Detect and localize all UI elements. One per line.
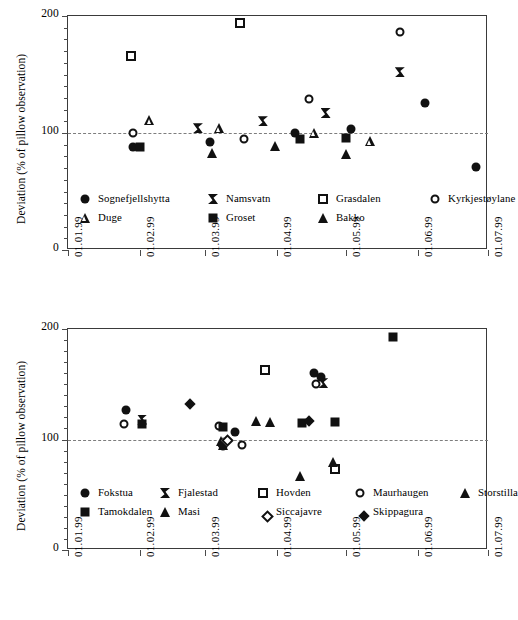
open-circle-marker-icon bbox=[431, 195, 440, 204]
y-axis-title: Deviation (% of pillow observation) bbox=[15, 54, 27, 224]
legend-label: Tamokdalen bbox=[98, 505, 152, 517]
open-square-marker-icon bbox=[258, 488, 268, 498]
y-axis-tick bbox=[64, 86, 68, 87]
x-axis-tick bbox=[205, 250, 206, 256]
x-axis-tick bbox=[140, 550, 141, 556]
filled-circle-marker-icon bbox=[122, 405, 131, 414]
y-axis-tick bbox=[64, 121, 68, 122]
y-axis-tick bbox=[64, 145, 68, 146]
filled-square-marker-icon bbox=[219, 423, 228, 432]
filled-square-marker-icon bbox=[296, 134, 305, 143]
filled-diamond-marker-icon bbox=[185, 398, 196, 409]
y-axis-tick bbox=[64, 362, 68, 363]
legend-row: TamokdalenMasiSiccajavreSkippagura bbox=[85, 505, 475, 520]
filled-triangle-marker-icon bbox=[265, 417, 275, 427]
y-axis-tick-label: 200 bbox=[21, 320, 59, 332]
open-circle-marker-icon bbox=[238, 441, 247, 450]
y-axis-tick bbox=[64, 428, 68, 429]
open-square-marker-icon bbox=[235, 18, 245, 28]
legend-label: Groset bbox=[226, 211, 255, 223]
y-axis-tick bbox=[64, 227, 68, 228]
open-circle-marker-icon bbox=[240, 134, 249, 143]
y-axis-tick-label: 0 bbox=[21, 541, 59, 553]
open-triangle-marker-icon bbox=[80, 213, 90, 223]
x-axis-tick-label: 01.01.99 bbox=[72, 516, 84, 557]
y-axis-tick bbox=[64, 484, 68, 485]
open-square-marker-icon bbox=[318, 194, 328, 204]
y-axis-tick bbox=[64, 203, 68, 204]
open-square-marker-icon bbox=[260, 365, 270, 375]
y-axis-tick bbox=[64, 215, 68, 216]
filled-triangle-marker-icon bbox=[270, 141, 280, 151]
filled-square-marker-icon bbox=[342, 133, 351, 142]
open-circle-marker-icon bbox=[128, 129, 137, 138]
y-axis-tick bbox=[64, 63, 68, 64]
filled-triangle-marker-icon bbox=[341, 149, 351, 159]
y-axis-tick bbox=[64, 110, 68, 111]
x-axis-tick-label: 01.06.99 bbox=[422, 516, 434, 557]
y-axis-tick bbox=[64, 51, 68, 52]
x-axis-tick bbox=[140, 250, 141, 256]
filled-triangle-marker-icon bbox=[251, 416, 261, 426]
bowtie-marker-icon bbox=[208, 194, 218, 204]
y-axis-tick bbox=[64, 417, 68, 418]
filled-circle-marker-icon bbox=[472, 162, 481, 171]
y-axis-tick bbox=[64, 98, 68, 99]
legend-label: Hovden bbox=[276, 486, 311, 498]
y-axis-tick bbox=[64, 351, 68, 352]
y-axis-tick bbox=[64, 238, 68, 239]
y-axis-tick bbox=[64, 506, 68, 507]
legend-label: Fjalestad bbox=[178, 486, 218, 498]
x-axis-tick bbox=[68, 250, 69, 256]
filled-triangle-marker-icon bbox=[318, 213, 328, 223]
y-axis-tick-label: 0 bbox=[21, 241, 59, 253]
filled-diamond-marker-icon bbox=[358, 510, 369, 521]
y-axis-tick bbox=[64, 168, 68, 169]
y-axis-tick bbox=[64, 180, 68, 181]
filled-triangle-marker-icon bbox=[460, 488, 470, 498]
filled-triangle-marker-icon bbox=[160, 507, 170, 517]
filled-circle-marker-icon bbox=[231, 427, 240, 436]
y-axis-tick bbox=[64, 528, 68, 529]
y-axis-tick bbox=[64, 39, 68, 40]
y-axis-major-tick bbox=[62, 16, 68, 17]
x-axis-tick bbox=[346, 250, 347, 256]
x-axis-tick bbox=[488, 550, 489, 556]
legend-row: SognefjellshyttaNamsvatnGrasdalenKyrkjes… bbox=[85, 192, 475, 207]
open-circle-marker-icon bbox=[305, 95, 314, 104]
legend-label: Storstilla bbox=[478, 486, 518, 498]
filled-square-marker-icon bbox=[135, 143, 144, 152]
y-axis-tick bbox=[64, 451, 68, 452]
open-triangle-marker-icon bbox=[309, 128, 319, 138]
legend-label: Grasdalen bbox=[336, 192, 381, 204]
legend-label: Sognefjellshytta bbox=[98, 192, 170, 204]
legend-label: Maurhaugen bbox=[373, 486, 429, 498]
x-axis-tick-label: 01.07.99 bbox=[492, 216, 504, 257]
legend-row: FokstuaFjalestadHovdenMaurhaugenStorstil… bbox=[85, 486, 475, 501]
y-axis-tick bbox=[64, 406, 68, 407]
bowtie-marker-icon bbox=[193, 123, 203, 133]
y-axis-tick-label: 200 bbox=[21, 7, 59, 19]
open-triangle-marker-icon bbox=[365, 136, 375, 146]
open-square-marker-icon bbox=[126, 51, 136, 61]
x-axis-tick bbox=[68, 550, 69, 556]
x-axis-tick bbox=[277, 550, 278, 556]
bowtie-marker-icon bbox=[321, 108, 331, 118]
filled-square-marker-icon bbox=[138, 420, 147, 429]
open-triangle-marker-icon bbox=[144, 115, 154, 125]
filled-square-marker-icon bbox=[330, 417, 339, 426]
legend-label: Duge bbox=[98, 211, 122, 223]
y-axis-tick bbox=[64, 192, 68, 193]
filled-square-marker-icon bbox=[388, 332, 397, 341]
filled-circle-marker-icon bbox=[205, 138, 214, 147]
legend-label: Kyrkjestøylane bbox=[448, 192, 515, 204]
bowtie-marker-icon bbox=[160, 488, 170, 498]
open-circle-marker-icon bbox=[356, 489, 365, 498]
reference-line-100 bbox=[68, 440, 488, 441]
x-axis-tick-label: 01.02.99 bbox=[144, 516, 156, 557]
bowtie-marker-icon bbox=[258, 116, 268, 126]
filled-square-marker-icon bbox=[81, 508, 90, 517]
open-circle-marker-icon bbox=[312, 380, 321, 389]
y-axis-tick bbox=[64, 539, 68, 540]
x-axis-tick bbox=[205, 550, 206, 556]
